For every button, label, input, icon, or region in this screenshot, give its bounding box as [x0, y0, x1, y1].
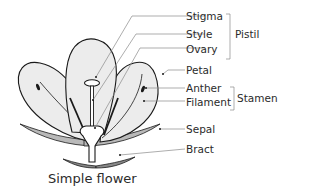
- label-style: Style: [186, 28, 212, 40]
- bract: [63, 157, 135, 168]
- label-stigma: Stigma: [186, 10, 223, 22]
- label-ovary: Ovary: [186, 43, 217, 55]
- pistil-bracket: [226, 14, 230, 59]
- label-bract: Bract: [186, 143, 214, 155]
- label-petal: Petal: [186, 64, 212, 76]
- diagram-title: Simple flower: [48, 171, 137, 186]
- label-sepal: Sepal: [186, 123, 215, 135]
- stigma-shape: [85, 80, 100, 86]
- group-label-stamen: Stamen: [237, 92, 278, 104]
- group-label-pistil: Pistil: [235, 28, 259, 40]
- label-anther: Anther: [186, 82, 221, 94]
- label-filament: Filament: [186, 96, 231, 108]
